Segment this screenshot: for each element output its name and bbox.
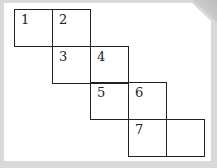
cell-label: 4	[97, 49, 105, 64]
grid-cell: 1	[14, 9, 53, 47]
grid-cell: 2	[52, 9, 91, 47]
grid-cell	[166, 119, 205, 157]
grid-cell: 5	[90, 82, 129, 120]
cell-label: 3	[59, 49, 67, 64]
cell-label: 7	[135, 122, 143, 137]
grid-cell: 4	[90, 46, 129, 84]
grid-cell: 6	[128, 82, 167, 120]
grid-cell: 3	[52, 46, 91, 84]
cell-label: 1	[21, 12, 29, 27]
cell-label: 6	[135, 85, 143, 100]
cell-label: 5	[97, 85, 105, 100]
cell-label: 2	[59, 12, 67, 27]
grid-cell: 7	[128, 119, 167, 157]
